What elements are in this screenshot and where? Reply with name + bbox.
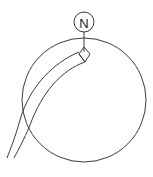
tube-inner-edge [14, 62, 85, 158]
north-marker-label: N [79, 16, 88, 31]
main-circle [22, 38, 146, 162]
tube-outer-edge [7, 52, 79, 158]
diagram-canvas: N [0, 0, 153, 177]
junction-diamond-edge [79, 54, 85, 62]
diagram-svg: N [0, 0, 153, 177]
